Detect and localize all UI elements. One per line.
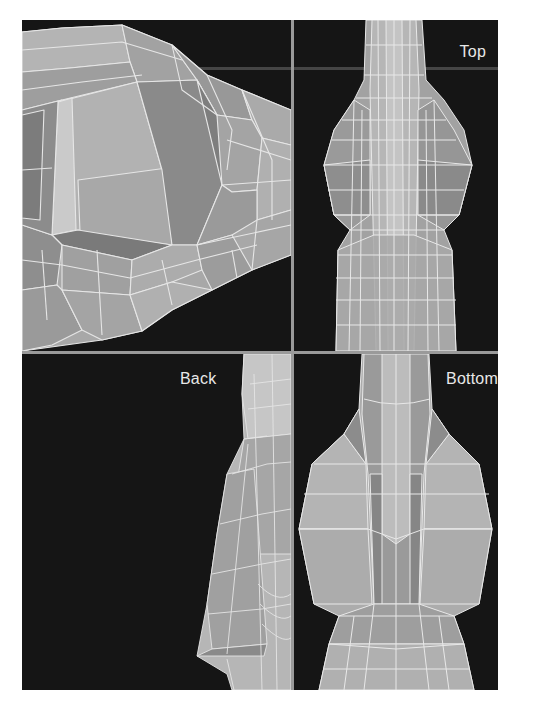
viewport-frame: Top	[22, 20, 498, 690]
back-view-mesh	[22, 354, 291, 690]
viewport-label-bottom: Bottom	[446, 370, 498, 388]
viewport-bottom[interactable]: Bottom	[294, 354, 498, 690]
top-view-mesh	[294, 20, 498, 351]
viewport-label-back: Back	[180, 370, 216, 388]
bottom-view-mesh	[294, 354, 498, 690]
perspective-mesh	[22, 20, 291, 351]
viewport-back[interactable]: Back	[22, 354, 291, 690]
viewport-label-top: Top	[460, 43, 486, 61]
viewport-top[interactable]: Top	[294, 20, 498, 351]
viewport-perspective[interactable]	[22, 20, 291, 351]
